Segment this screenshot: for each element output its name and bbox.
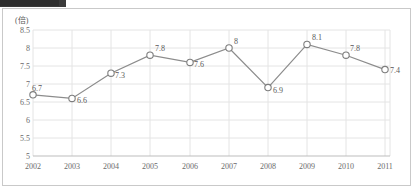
data-point-marker <box>147 52 153 58</box>
data-point-label: 8.1 <box>312 33 322 42</box>
data-point-marker <box>265 84 271 90</box>
x-tick-label: 2008 <box>248 162 288 171</box>
x-tick-label: 2009 <box>287 162 327 171</box>
data-point-label: 6.9 <box>273 86 283 95</box>
plot-canvas <box>0 0 414 188</box>
screenshot-root: (倍) 8.5 8 7.5 7 6.5 6 5.5 5 <box>0 0 414 188</box>
data-point-label: 7.8 <box>155 44 165 53</box>
x-tick-label: 2004 <box>91 162 131 171</box>
data-point-marker <box>69 95 75 101</box>
data-point-label: 6.6 <box>77 96 87 105</box>
series-line <box>33 44 385 98</box>
data-point-marker <box>382 66 388 72</box>
line-chart: (倍) 8.5 8 7.5 7 6.5 6 5.5 5 <box>0 0 414 188</box>
data-point-label: 7.6 <box>194 60 204 69</box>
data-point-marker <box>226 45 232 51</box>
data-point-marker <box>108 70 114 76</box>
data-point-label: 7.3 <box>115 71 125 80</box>
x-tick-label: 2007 <box>209 162 249 171</box>
data-point-marker <box>187 59 193 65</box>
data-point-label: 7.4 <box>390 66 400 75</box>
data-point-marker <box>343 52 349 58</box>
x-tick-label: 2010 <box>326 162 366 171</box>
x-tick-label: 2003 <box>52 162 92 171</box>
data-point-label: 8 <box>234 37 238 46</box>
data-point-label: 7.8 <box>350 44 360 53</box>
data-point-marker <box>304 41 310 47</box>
x-tick-label: 2006 <box>170 162 210 171</box>
data-point-label: 6.7 <box>32 84 42 93</box>
x-tick-label: 2011 <box>365 162 405 171</box>
x-tick-label: 2002 <box>13 162 53 171</box>
x-tick-label: 2005 <box>130 162 170 171</box>
